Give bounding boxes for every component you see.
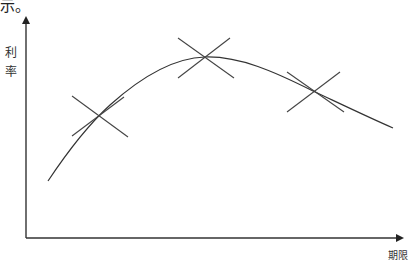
- yield-curve: [48, 57, 393, 181]
- right-cross-marker: [287, 72, 344, 112]
- yield-curve-diagram: [0, 0, 416, 261]
- left-cross-marker: [72, 96, 128, 137]
